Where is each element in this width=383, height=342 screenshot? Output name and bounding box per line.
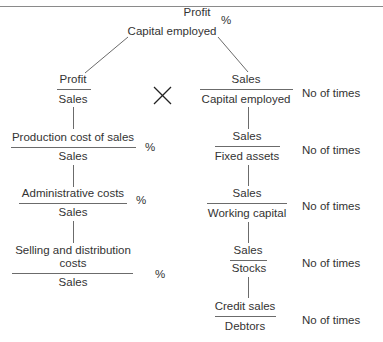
denominator: Stocks [232,263,267,275]
top-denominator: Capital employed [128,26,217,38]
numerator: Sales [232,74,261,86]
fraction-bar [200,89,293,90]
numerator-line-1: Selling and distribution [15,245,131,257]
right-vertical-connector-2 [248,165,249,186]
numerator-line-2: costs [60,258,87,270]
left-diagonal-connector [85,37,128,73]
unit-no-of-times: No of times [302,201,360,213]
numerator: Profit [60,74,87,86]
fraction-bar [11,147,136,148]
denominator: Sales [59,94,88,106]
unit-percent: % [136,195,146,207]
fraction-bar [19,203,127,204]
fraction-bar [207,203,287,204]
left-vertical-connector-3 [73,221,74,243]
numerator: Credit sales [215,301,276,313]
numerator: Administrative costs [22,188,124,200]
denominator: Working capital [208,208,286,220]
denominator: Sales [59,151,88,163]
denominator: Fixed assets [215,151,280,163]
left-vertical-connector-1 [73,107,74,129]
right-vertical-connector-1 [248,107,249,129]
unit-no-of-times: No of times [302,145,360,157]
multiply-icon [154,87,171,104]
top-unit-percent: % [221,15,231,27]
connector-lines [0,0,383,342]
unit-no-of-times: No of times [302,258,360,270]
denominator: Sales [59,277,88,289]
numerator: Production cost of sales [12,132,134,144]
fraction-bar [12,273,133,274]
unit-no-of-times: No of times [302,88,360,100]
denominator: Capital employed [202,94,291,106]
top-numerator: Profit [184,7,211,19]
unit-percent: % [145,142,155,154]
unit-no-of-times: No of times [302,315,360,327]
left-vertical-connector-2 [73,165,74,187]
numerator: Sales [233,188,262,200]
numerator: Sales [233,131,262,143]
ratio-pyramid-diagram: Profit Capital employed % Profit Sales P… [0,0,383,342]
right-diagonal-connector [218,37,248,72]
numerator: Sales [234,245,263,257]
fraction-bar [230,260,267,261]
fraction-bar [57,89,91,90]
denominator: Debtors [225,321,265,333]
right-vertical-connector-4 [248,277,249,298]
unit-percent: % [155,269,165,281]
right-vertical-connector-3 [248,222,249,243]
fraction-bar [215,146,280,147]
denominator: Sales [59,207,88,219]
fraction-bar [215,316,276,317]
